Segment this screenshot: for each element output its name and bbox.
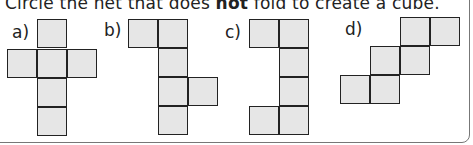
net-d-square[interactable]: [400, 46, 430, 75]
net-b-label[interactable]: b): [104, 20, 121, 40]
net-a-square[interactable]: [37, 78, 67, 107]
net-c-square[interactable]: [249, 106, 279, 135]
net-d-square[interactable]: [340, 75, 370, 104]
question-suffix: fold to create a cube.: [248, 0, 440, 13]
net-b-square[interactable]: [188, 77, 218, 106]
net-a-label[interactable]: a): [12, 22, 29, 42]
question-prefix: Circle the net that does: [5, 0, 216, 13]
net-c-square[interactable]: [279, 19, 309, 48]
net-d-square[interactable]: [400, 17, 430, 46]
net-b-square[interactable]: [128, 19, 158, 48]
net-c-square[interactable]: [249, 19, 279, 48]
net-a-square[interactable]: [37, 19, 67, 48]
net-a-square[interactable]: [37, 49, 67, 78]
question-emphasis: not: [216, 0, 249, 13]
net-a-square[interactable]: [7, 49, 37, 78]
net-c-square[interactable]: [279, 77, 309, 106]
net-b-square[interactable]: [158, 106, 188, 135]
net-d-square[interactable]: [430, 17, 460, 46]
net-d-label[interactable]: d): [345, 19, 362, 39]
net-b-square[interactable]: [158, 19, 188, 48]
net-c-square[interactable]: [279, 106, 309, 135]
net-a-square[interactable]: [67, 49, 97, 78]
net-a-square[interactable]: [37, 107, 67, 136]
net-d-square[interactable]: [370, 46, 400, 75]
question-text: Circle the net that does not fold to cre…: [5, 0, 440, 13]
net-b-square[interactable]: [158, 77, 188, 106]
net-c-square[interactable]: [279, 48, 309, 77]
net-b-square[interactable]: [158, 48, 188, 77]
net-d-square[interactable]: [370, 75, 400, 104]
net-c-label[interactable]: c): [225, 22, 241, 42]
